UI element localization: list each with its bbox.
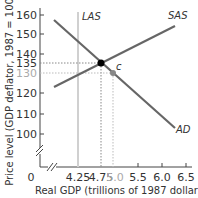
y-tick-150: 150	[16, 28, 37, 41]
chart: 160 150 140 135 130 120 110 100 4.25 4.7…	[0, 0, 198, 198]
sas-label: SAS	[168, 10, 188, 21]
x-tick-6-0: 6.0	[153, 171, 171, 184]
x-tick-6-5: 6.5	[177, 171, 195, 184]
origin-label: 0	[28, 171, 35, 184]
y-tick-160: 160	[16, 9, 37, 22]
x-tick-5-5: 5.5	[129, 171, 147, 184]
y-tick-110: 110	[16, 108, 37, 121]
x-ticks: 4.25 4.75 5.0 5.5 6.0 6.5	[66, 163, 195, 184]
y-tick-130: 130	[16, 67, 37, 80]
equilibrium-point	[98, 60, 105, 67]
x-axis-label: Real GDP (trillions of 1987 dollars)	[35, 185, 198, 196]
y-tick-120: 120	[16, 87, 37, 100]
x-tick-5-0: 5.0	[106, 171, 124, 184]
ad-label: AD	[175, 124, 191, 135]
point-c-label: c	[116, 61, 122, 72]
y-tick-100: 100	[16, 128, 37, 141]
y-axis-label: Price level (GDP deflator, 1987 = 100)	[4, 0, 15, 186]
las-label: LAS	[82, 11, 101, 22]
x-tick-4-25: 4.25	[66, 171, 91, 184]
